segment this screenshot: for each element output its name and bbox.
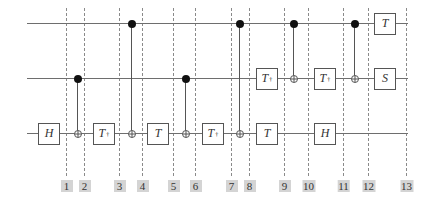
slice-divider [249,8,250,176]
gate-t: T [147,123,169,145]
dagger-symbol: † [269,75,273,83]
slice-label: 11 [337,180,350,192]
slice-label: 2 [79,180,91,192]
slice-divider [308,8,309,176]
cnot-connector [293,23,294,78]
quantum-circuit-diagram: 12345678910111213HT†TT†T†TT†HTS [0,0,435,204]
cnot-control-dot [182,75,190,83]
cnot-control-dot [351,20,359,28]
cnot-control-dot [236,20,244,28]
cnot-target-icon [351,75,359,83]
gate-t: T [256,123,278,145]
slice-label: 9 [279,180,291,192]
cnot-connector [77,78,78,133]
gate-label: T [261,71,268,86]
slice-divider [119,8,120,176]
cnot-target-icon [290,75,298,83]
slice-divider [343,8,344,176]
slice-label: 3 [114,180,126,192]
slice-label: 10 [302,180,315,192]
gate-t-dagger: T† [93,123,115,145]
slice-divider [66,8,67,176]
slice-label: 4 [137,180,149,192]
slice-label: 1 [61,180,73,192]
gate-h: H [314,123,336,145]
dagger-symbol: † [327,75,331,83]
gate-label: T [382,16,389,31]
cnot-connector [354,23,355,78]
cnot-target-icon [236,130,244,138]
slice-label: 8 [244,180,256,192]
slice-label: 13 [400,180,413,192]
cnot-control-dot [128,20,136,28]
cnot-control-dot [290,20,298,28]
cnot-connector [239,23,240,133]
gate-label: T [319,71,326,86]
gate-s: S [374,68,396,90]
cnot-target-icon [74,130,82,138]
slice-divider [142,8,143,176]
slice-divider [84,8,85,176]
gate-h: H [38,123,60,145]
gate-t: T [374,13,396,35]
slice-label: 6 [190,180,202,192]
gate-t-dagger: T† [314,68,336,90]
dagger-symbol: † [106,130,110,138]
gate-label: S [382,71,388,86]
slice-label: 7 [226,180,238,192]
slice-divider [231,8,232,176]
gate-label: T [98,126,105,141]
slice-divider [195,8,196,176]
slice-label: 5 [168,180,180,192]
cnot-connector [131,23,132,133]
gate-label: H [45,126,54,141]
slice-label: 12 [362,180,375,192]
gate-t-dagger: T† [202,123,224,145]
cnot-connector [185,78,186,133]
gate-label: T [155,126,162,141]
cnot-target-icon [128,130,136,138]
slice-divider [284,8,285,176]
gate-label: T [264,126,271,141]
cnot-control-dot [74,75,82,83]
slice-divider [173,8,174,176]
gate-label: T [207,126,214,141]
slice-divider [368,8,369,176]
gate-t-dagger: T† [256,68,278,90]
slice-divider [406,8,407,176]
gate-label: H [321,126,330,141]
dagger-symbol: † [215,130,219,138]
cnot-target-icon [182,130,190,138]
